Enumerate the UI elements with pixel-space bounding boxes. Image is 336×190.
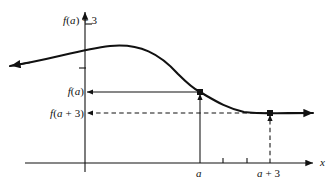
x-label-a: a [196,168,202,179]
function-curve [10,46,313,114]
y-label-fa-plus-3: f(a) + 3 [63,15,97,26]
x-axis-label: x [320,157,325,168]
fa-plus-3-annotation [87,110,273,163]
point-at-a-plus-3-marker [267,110,273,116]
function-graph-figure: f(a) + 3 f(a) f(a + 3) a a + 3 x [0,0,336,190]
x-label-a-plus-3: a + 3 [257,168,280,179]
y-label-fa-plus-3-value: f(a + 3) [50,108,84,119]
graph-canvas [0,0,336,190]
point-at-a-marker [197,89,203,95]
curve-path [10,46,313,114]
fa-annotation [87,89,203,163]
y-label-fa: f(a) [68,86,84,97]
